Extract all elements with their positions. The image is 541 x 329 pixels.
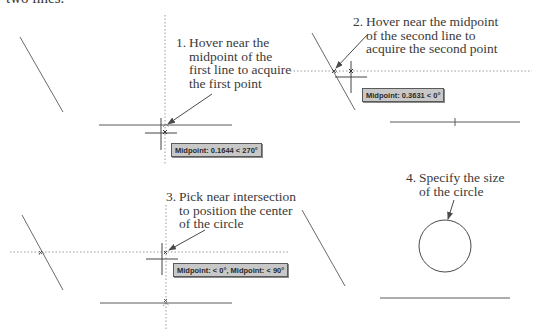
caption-line: Hover near the midpoint [366, 15, 498, 29]
step-number: 1. [176, 36, 186, 50]
step-number: 4. [406, 171, 416, 185]
caption-line: to position the center [179, 204, 296, 218]
step-number: 3. [166, 190, 176, 204]
diagonal-line-4 [302, 210, 345, 286]
caption-line: of the circle [419, 185, 504, 199]
leader-arrow-1 [168, 94, 212, 124]
caption-line: the first point [189, 77, 291, 91]
caption-line: of the circle [179, 217, 296, 231]
diagonal-line-1 [20, 37, 63, 112]
caption-line: of the second line to [366, 29, 498, 43]
osnap-tooltip-1: Midpoint: 0.1644 < 270° [171, 143, 262, 157]
step-number: 2. [353, 15, 363, 29]
osnap-tooltip-2: Midpoint: 0.3631 < 0° [362, 88, 444, 102]
caption-line: Pick near intersection [179, 190, 296, 204]
drawn-circle [419, 220, 471, 272]
leader-arrow-3 [169, 230, 205, 250]
caption-line: Specify the size [419, 171, 504, 185]
caption-line: Hover near the [189, 36, 291, 50]
leader-arrow-2 [336, 34, 368, 68]
caption-line: first line to acquire [189, 63, 291, 77]
osnap-tooltip-3: Midpoint: < 0°, Midpoint: < 90° [173, 263, 288, 277]
panel-step-4 [302, 200, 510, 298]
leader-arrow-4 [448, 200, 454, 219]
caption-line: midpoint of the [189, 50, 291, 64]
caption-line: acquire the second point [366, 42, 498, 56]
